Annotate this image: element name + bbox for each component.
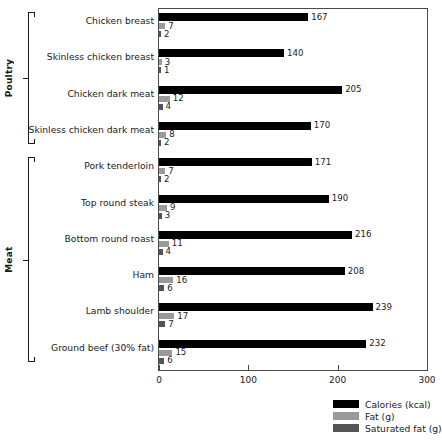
bar-value-calories-4: 171 bbox=[315, 158, 331, 167]
bar-value-fat-6: 11 bbox=[172, 239, 183, 248]
bracket-center-nub bbox=[23, 260, 29, 261]
bar-satfat-5 bbox=[159, 213, 162, 219]
bar-value-calories-8: 239 bbox=[376, 303, 392, 312]
legend-label-fat: Fat (g) bbox=[365, 411, 395, 422]
category-label-6: Bottom round roast bbox=[65, 234, 154, 244]
bar-calories-9 bbox=[159, 340, 366, 348]
bar-satfat-2 bbox=[159, 104, 163, 110]
bar-calories-4 bbox=[159, 158, 312, 166]
legend-swatch-fat bbox=[333, 412, 359, 420]
category-label-7: Ham bbox=[133, 270, 155, 280]
bar-value-fat-9: 15 bbox=[175, 348, 186, 357]
category-label-1: Skinless chicken breast bbox=[47, 52, 154, 62]
bar-value-calories-2: 205 bbox=[345, 85, 361, 94]
bar-satfat-7 bbox=[159, 285, 164, 291]
bar-value-fat-8: 17 bbox=[177, 312, 188, 321]
bar-value-fat-2: 12 bbox=[173, 94, 184, 103]
bar-satfat-8 bbox=[159, 321, 165, 327]
bracket-cap-top bbox=[34, 12, 35, 17]
bar-satfat-6 bbox=[159, 249, 163, 255]
legend-swatch-satfat bbox=[333, 424, 359, 432]
category-label-2: Chicken dark meat bbox=[67, 89, 154, 99]
bar-value-satfat-7: 6 bbox=[167, 284, 172, 293]
x-tick-0 bbox=[159, 365, 160, 370]
bar-value-satfat-9: 6 bbox=[167, 356, 172, 365]
bracket-cap-bot bbox=[34, 139, 35, 144]
x-tick-200 bbox=[338, 365, 339, 370]
x-tick-label-100: 100 bbox=[228, 375, 268, 385]
bar-calories-5 bbox=[159, 195, 329, 203]
bar-satfat-9 bbox=[159, 358, 164, 364]
bar-satfat-0 bbox=[159, 31, 161, 37]
bar-value-satfat-5: 3 bbox=[165, 211, 170, 220]
plot-area: 1677214031205124170821717219093216114208… bbox=[158, 8, 428, 371]
bar-calories-6 bbox=[159, 231, 352, 239]
bar-value-satfat-1: 1 bbox=[164, 66, 169, 75]
chart-figure: PoultryMeat Chicken breastSkinless chick… bbox=[0, 0, 442, 443]
bar-value-fat-7: 16 bbox=[176, 276, 187, 285]
bar-fat-1 bbox=[159, 59, 162, 65]
bar-calories-2 bbox=[159, 86, 342, 94]
group-label-meat: Meat bbox=[4, 154, 14, 365]
x-tick-label-200: 200 bbox=[318, 375, 358, 385]
bar-value-satfat-3: 2 bbox=[164, 138, 169, 147]
category-label-0: Chicken breast bbox=[86, 16, 154, 26]
category-label-4: Pork tenderloin bbox=[84, 161, 154, 171]
category-label-3: Skinless chicken dark meat bbox=[29, 125, 154, 135]
legend-label-satfat: Saturated fat (g) bbox=[365, 423, 442, 434]
bar-calories-8 bbox=[159, 303, 373, 311]
bar-value-satfat-8: 7 bbox=[168, 320, 173, 329]
legend-swatch-calories bbox=[333, 400, 359, 408]
legend-label-calories: Calories (kcal) bbox=[365, 399, 431, 410]
group-label-poultry: Poultry bbox=[4, 9, 14, 147]
bar-value-calories-3: 170 bbox=[314, 121, 330, 130]
bar-value-satfat-4: 2 bbox=[164, 175, 169, 184]
category-label-9: Ground beef (30% fat) bbox=[51, 343, 154, 353]
bar-satfat-1 bbox=[159, 67, 161, 73]
x-tick-label-0: 0 bbox=[139, 375, 179, 385]
bracket-cap-top bbox=[34, 157, 35, 162]
bar-satfat-4 bbox=[159, 176, 161, 182]
bar-value-calories-0: 167 bbox=[311, 13, 327, 22]
bar-value-calories-7: 208 bbox=[348, 267, 364, 276]
bar-value-fat-5: 9 bbox=[170, 203, 175, 212]
bar-value-calories-9: 232 bbox=[369, 339, 385, 348]
bar-value-calories-5: 190 bbox=[332, 194, 348, 203]
bar-satfat-3 bbox=[159, 140, 161, 146]
bar-calories-0 bbox=[159, 13, 308, 21]
bar-calories-7 bbox=[159, 267, 345, 275]
bar-value-satfat-6: 4 bbox=[166, 247, 171, 256]
bar-calories-3 bbox=[159, 122, 311, 130]
group-bracket-1 bbox=[22, 154, 38, 365]
bracket-center-nub bbox=[23, 78, 29, 79]
bar-value-fat-3: 8 bbox=[169, 130, 174, 139]
bar-value-calories-1: 140 bbox=[287, 49, 303, 58]
category-label-8: Lamb shoulder bbox=[86, 306, 154, 316]
bar-value-satfat-2: 4 bbox=[166, 102, 171, 111]
bar-value-calories-6: 216 bbox=[355, 230, 371, 239]
bracket-cap-bot bbox=[34, 357, 35, 362]
bar-value-satfat-0: 2 bbox=[164, 30, 169, 39]
category-label-5: Top round steak bbox=[81, 198, 154, 208]
bar-calories-1 bbox=[159, 49, 284, 57]
x-tick-100 bbox=[248, 365, 249, 370]
x-tick-300 bbox=[427, 365, 428, 370]
x-tick-label-300: 300 bbox=[407, 375, 442, 385]
